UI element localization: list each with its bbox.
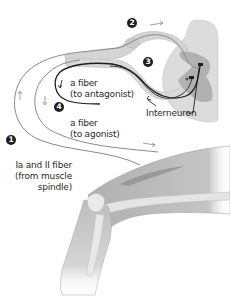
- diagram-artwork: [0, 0, 230, 301]
- limb: [61, 146, 231, 295]
- label-line: a fiber: [70, 78, 134, 89]
- label-line: (to agonist): [70, 129, 120, 140]
- step-2-badge: 2: [127, 18, 137, 28]
- lower-leg: [61, 200, 112, 295]
- label-line: Ia and II fiber: [14, 160, 72, 171]
- arrow-icon: [147, 96, 151, 100]
- step-4-badge: 4: [54, 102, 64, 112]
- label-line: (to antagonist): [70, 89, 134, 100]
- step-3-badge: 3: [143, 57, 153, 67]
- interneuron-cell: [185, 77, 188, 80]
- stretch-reflex-diagram: 1 2 3 4 a fiber (to antagonist) a fiber …: [0, 0, 230, 301]
- knee-cap: [87, 194, 104, 213]
- interneuron-label: Interneuron: [146, 108, 196, 119]
- arrow-icon: [148, 100, 156, 106]
- afferent-fiber-label: Ia and II fiber (from muscle spindle): [14, 160, 72, 193]
- synapse-terminal: [189, 76, 194, 79]
- label-line: a fiber: [70, 118, 120, 129]
- synapse-terminal: [198, 63, 203, 66]
- step-1-badge: 1: [6, 135, 16, 145]
- label-line: (from muscle: [14, 171, 72, 182]
- alpha-fiber-antagonist-label: a fiber (to antagonist): [70, 78, 134, 100]
- label-line: spindle): [14, 182, 72, 193]
- alpha-fiber-agonist-label: a fiber (to agonist): [70, 118, 120, 140]
- ventral-horn: [179, 79, 191, 86]
